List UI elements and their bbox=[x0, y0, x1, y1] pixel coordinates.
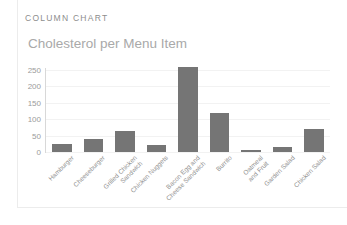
bar[interactable] bbox=[273, 147, 293, 152]
y-tick-label: 50 bbox=[32, 131, 41, 140]
card-left-divider bbox=[17, 0, 18, 207]
bar[interactable] bbox=[178, 67, 198, 152]
y-tick-label: 0 bbox=[37, 148, 41, 157]
bar[interactable] bbox=[210, 113, 230, 152]
y-tick-label: 200 bbox=[28, 82, 41, 91]
bar[interactable] bbox=[304, 129, 324, 152]
bar[interactable] bbox=[241, 150, 261, 152]
bar[interactable] bbox=[52, 144, 72, 152]
gridline bbox=[46, 152, 330, 153]
y-tick-label: 250 bbox=[28, 66, 41, 75]
chart-card: COLUMN CHART Cholesterol per Menu Item 0… bbox=[0, 0, 347, 225]
plot-area: 050100150200250 bbox=[46, 70, 330, 152]
chart-title: Cholesterol per Menu Item bbox=[28, 36, 187, 51]
bar[interactable] bbox=[84, 139, 104, 152]
x-axis-labels: HamburgerCheeseburgerGrilled Chicken San… bbox=[46, 154, 330, 214]
bar[interactable] bbox=[147, 145, 167, 152]
y-tick-label: 100 bbox=[28, 115, 41, 124]
y-tick-label: 150 bbox=[28, 98, 41, 107]
chart-kicker-label: COLUMN CHART bbox=[25, 13, 108, 23]
x-tick-label: Hamburger bbox=[20, 154, 75, 209]
bar-series bbox=[46, 70, 330, 152]
bar[interactable] bbox=[115, 131, 135, 152]
